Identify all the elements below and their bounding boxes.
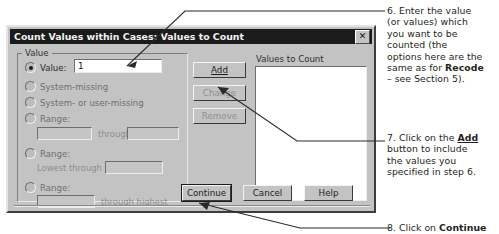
range-through-label: through — [98, 129, 131, 139]
change-button-label: Change — [203, 88, 236, 98]
radio-label-range-through-highest: Range: — [40, 183, 70, 193]
radio-option-value[interactable]: Value: — [25, 62, 67, 73]
radio-label-range-lowest-through: Range: — [40, 149, 70, 159]
radio-icon-system-or-user-missing[interactable] — [25, 97, 36, 108]
radio-label-range-through: Range: — [40, 114, 70, 124]
radio-icon-range-through-highest[interactable] — [25, 182, 36, 193]
value-groupbox-legend: Value — [22, 48, 52, 58]
annotation-step-7: 7. Click on the Add button to include th… — [387, 132, 497, 178]
continue-button-label: Continue — [187, 188, 226, 198]
radio-option-range-lowest-through[interactable]: Range: — [25, 148, 70, 159]
radio-option-system-missing[interactable]: System-missing — [25, 81, 108, 92]
annotation-7-line-1: 7. Click on the — [387, 132, 457, 143]
annotation-step-8: 8. Click on Continue — [387, 222, 499, 233]
remove-button-label: Remove — [202, 111, 237, 121]
remove-button[interactable]: Remove — [193, 108, 246, 124]
range-lowest-through-input[interactable] — [105, 161, 163, 174]
annotation-6-line-5: options here are the — [387, 51, 482, 62]
annotation-step-6: 6. Enter the value (or values) which you… — [387, 5, 497, 85]
annotation-6-line-4: counted (the — [387, 39, 447, 50]
radio-label-system-or-user-missing: System- or user-missing — [40, 98, 144, 108]
screenshot-root: 6. Enter the value (or values) which you… — [0, 0, 499, 234]
change-button[interactable]: Change — [193, 85, 246, 101]
annotation-7-line-2: button to include — [387, 143, 467, 154]
radio-option-range-through[interactable]: Range: — [25, 113, 70, 124]
help-button[interactable]: Help — [304, 185, 353, 201]
annotation-7-line-4: specified in step 6. — [387, 166, 476, 177]
radio-option-system-or-user-missing[interactable]: System- or user-missing — [25, 97, 144, 108]
radio-icon-system-missing[interactable] — [25, 81, 36, 92]
close-icon[interactable]: ✕ — [355, 30, 370, 44]
annotation-8-bold-word: Continue — [439, 222, 486, 233]
radio-icon-range-through[interactable] — [25, 113, 36, 124]
count-values-dialog: Count Values within Cases: Values to Cou… — [6, 25, 376, 213]
value-input[interactable]: 1 — [74, 59, 162, 73]
dialog-titlebar[interactable]: Count Values within Cases: Values to Cou… — [10, 29, 372, 44]
annotation-6-line-3: you want to be — [387, 28, 457, 39]
footer-divider — [14, 205, 370, 207]
radio-label-value: Value: — [40, 63, 67, 73]
lowest-through-label: Lowest through — [37, 163, 102, 173]
values-to-count-listbox[interactable] — [255, 66, 367, 201]
annotation-6-line-6: same as for — [387, 62, 445, 73]
range-high-input[interactable] — [127, 127, 179, 140]
annotation-8-line-1: 8. Click on — [387, 222, 439, 233]
help-button-label: Help — [319, 188, 339, 198]
add-button-label: Add — [211, 65, 228, 75]
continue-button[interactable]: Continue — [182, 185, 231, 201]
add-button[interactable]: Add — [193, 62, 246, 78]
annotation-6-bold-word: Recode — [445, 62, 484, 73]
annotation-6-line-2: (or values) which — [387, 16, 468, 27]
radio-label-system-missing: System-missing — [40, 82, 108, 92]
radio-option-range-through-highest[interactable]: Range: — [25, 182, 70, 193]
radio-icon-range-lowest-through[interactable] — [25, 148, 36, 159]
values-to-count-label: Values to Count — [256, 54, 324, 64]
annotation-6-line-7: – see Section 5). — [387, 73, 465, 84]
annotation-6-line-1: 6. Enter the value — [387, 5, 471, 16]
cancel-button[interactable]: Cancel — [243, 185, 292, 201]
range-low-input[interactable] — [37, 127, 92, 140]
annotation-7-line-3: the values you — [387, 155, 456, 166]
radio-icon-value[interactable] — [25, 62, 36, 73]
cancel-button-label: Cancel — [253, 188, 282, 198]
annotation-7-bold-word: Add — [457, 132, 478, 143]
dialog-title: Count Values within Cases: Values to Cou… — [10, 31, 244, 42]
